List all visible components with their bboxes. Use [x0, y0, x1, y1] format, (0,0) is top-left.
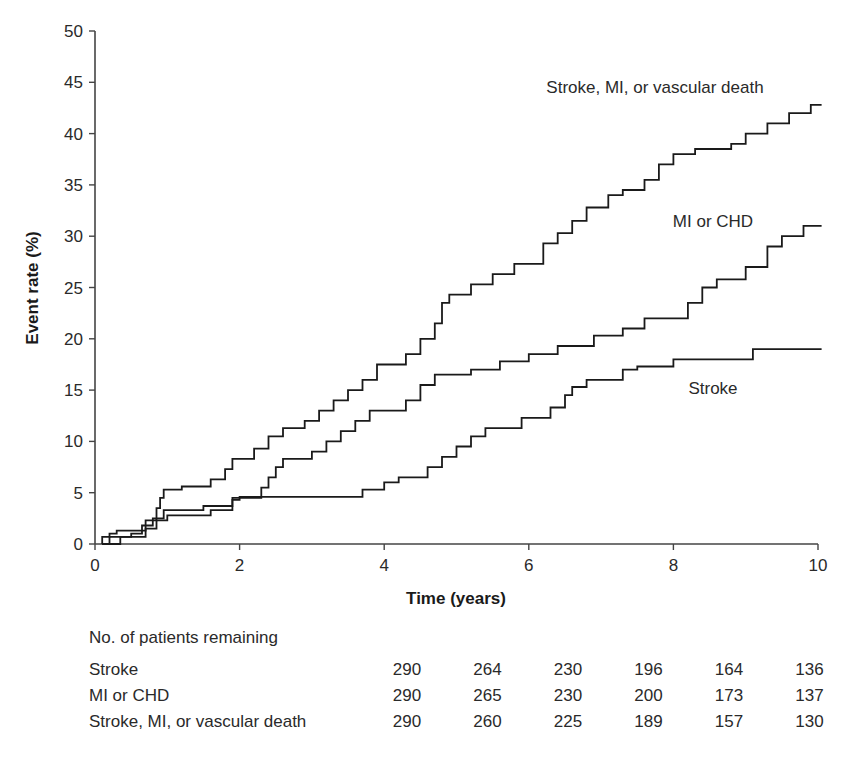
risk-table-title: No. of patients remaining	[89, 628, 278, 648]
x-axis-ticks: 0246810	[90, 544, 827, 575]
risk-cell: 290	[377, 686, 437, 706]
x-tick-label: 2	[235, 556, 244, 575]
series-labels: Stroke, MI, or vascular deathMI or CHDSt…	[546, 78, 763, 398]
x-tick-label: 6	[524, 556, 533, 575]
risk-cell: 230	[538, 686, 598, 706]
y-tick-label: 20	[64, 330, 83, 349]
risk-cell: 164	[699, 660, 759, 680]
y-tick-label: 25	[64, 279, 83, 298]
y-tick-label: 10	[64, 432, 83, 451]
risk-cell: 290	[377, 712, 437, 732]
series-lines	[102, 105, 821, 544]
series-label-1: MI or CHD	[673, 212, 753, 231]
risk-cell: 173	[699, 686, 759, 706]
x-tick-label: 10	[809, 556, 828, 575]
y-axis-title: Event rate (%)	[23, 231, 42, 344]
x-tick-label: 0	[90, 556, 99, 575]
y-tick-label: 0	[74, 535, 83, 554]
km-chart: 05101520253035404550 0246810 Stroke, MI,…	[0, 0, 852, 620]
y-axis-ticks: 05101520253035404550	[64, 22, 95, 554]
y-tick-label: 35	[64, 176, 83, 195]
risk-cell: 196	[619, 660, 679, 680]
y-tick-label: 15	[64, 381, 83, 400]
risk-row-label: MI or CHD	[89, 686, 169, 706]
y-tick-label: 50	[64, 22, 83, 41]
risk-cell: 260	[458, 712, 518, 732]
risk-cell: 157	[699, 712, 759, 732]
x-axis-title: Time (years)	[406, 589, 506, 608]
series-label-0: Stroke, MI, or vascular death	[546, 78, 763, 97]
series-label-2: Stroke	[688, 379, 737, 398]
risk-cell: 264	[458, 660, 518, 680]
risk-cell: 230	[538, 660, 598, 680]
y-tick-label: 45	[64, 73, 83, 92]
risk-cell: 136	[780, 660, 840, 680]
risk-row-label: Stroke, MI, or vascular death	[89, 712, 306, 732]
risk-cell: 290	[377, 660, 437, 680]
y-tick-label: 5	[74, 484, 83, 503]
risk-cell: 265	[458, 686, 518, 706]
risk-cell: 137	[780, 686, 840, 706]
x-tick-label: 8	[669, 556, 678, 575]
risk-cell: 189	[619, 712, 679, 732]
risk-cell: 130	[780, 712, 840, 732]
risk-cell: 225	[538, 712, 598, 732]
y-tick-label: 30	[64, 227, 83, 246]
y-tick-label: 40	[64, 125, 83, 144]
x-tick-label: 4	[379, 556, 388, 575]
series-line-0	[102, 105, 821, 544]
risk-row-label: Stroke	[89, 660, 138, 680]
risk-cell: 200	[619, 686, 679, 706]
